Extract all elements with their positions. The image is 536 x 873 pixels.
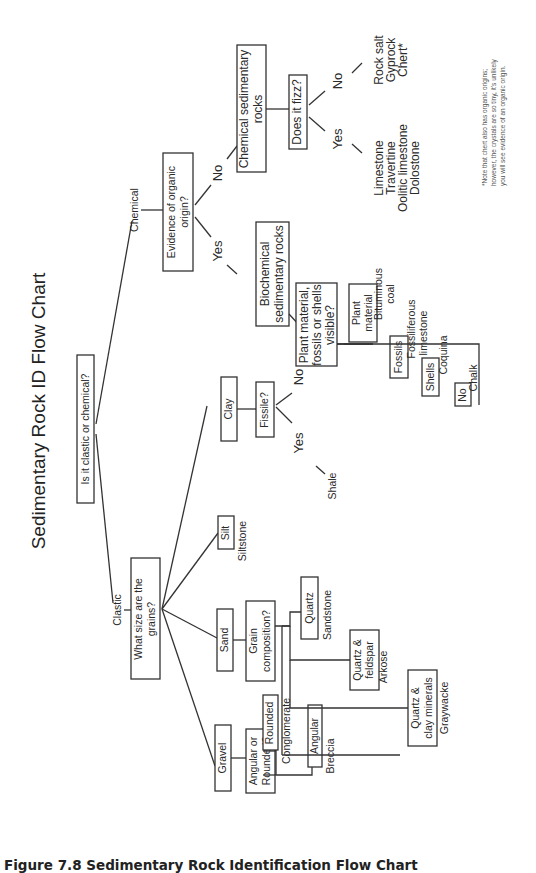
quartz-clay-line1: Quartz & — [409, 687, 421, 728]
connector-evaporites — [352, 63, 362, 73]
shells-label: Shells — [424, 363, 436, 392]
chem-sed-line2: rocks — [251, 95, 265, 124]
note-line3: you will see evidence of an organic orig… — [499, 65, 507, 186]
organic-origin-line2: origin? — [178, 196, 190, 228]
angular-rounded-line1: Angular or — [247, 736, 259, 785]
note-line2: however, the crystals are so tiny, it's … — [490, 58, 498, 186]
silt-label: Silt — [219, 526, 231, 541]
quartz-label: Quartz — [303, 592, 315, 624]
biochemical-line1: Biochemical — [258, 242, 272, 307]
chalk-label: Chalk — [467, 364, 479, 392]
fizz-yes-label: Yes — [330, 128, 345, 150]
connector-root-clastic — [96, 434, 113, 603]
clastic-label: Clastic — [111, 594, 123, 626]
bituminous-coal-line2: coal — [384, 284, 396, 303]
fissile-question: Fissile? — [258, 392, 270, 428]
connector-chem-sed — [227, 146, 237, 159]
fizz-question: Does it fizz? — [290, 79, 304, 145]
fossiliferous-line2: limestone — [417, 310, 429, 355]
plant-material-line1: Plant — [350, 301, 362, 325]
connector-fizz-yes — [309, 117, 325, 131]
connector-fissile-yes — [276, 407, 292, 423]
siltstone-label: Siltstone — [236, 521, 248, 561]
connector-organic-no — [195, 185, 211, 205]
rounded-label: Rounded — [263, 702, 275, 745]
visible-question-line1: Plant material, — [297, 287, 311, 364]
fizz-no-label: No — [330, 73, 345, 90]
fossiliferous-line1: Fossiliferous — [405, 300, 417, 359]
angular-label: Angular — [308, 717, 320, 754]
connector-angular-path — [276, 767, 312, 775]
quartz-clay-line2: clay minerals — [422, 677, 434, 738]
connector-quartz-clay — [290, 660, 408, 708]
visible-question-line3: visible? — [323, 305, 337, 345]
grain-size-question-line2: grains? — [145, 602, 157, 637]
organic-no-label: No — [210, 165, 225, 182]
connector-fizz-no — [309, 91, 325, 105]
visible-question-line2: fossils or shells — [310, 284, 324, 365]
shale-label: Shale — [326, 472, 338, 499]
chem-sed-line1: Chemical sedimentary — [237, 50, 251, 169]
organic-origin-line1: Evidence of organic — [165, 166, 177, 258]
bituminous-coal-line1: Bituminous — [372, 268, 384, 320]
fissile-no-label: No — [291, 369, 306, 386]
fossils-label: Fossils — [392, 341, 404, 374]
chart-title: Sedimentary Rock ID Flow Chart — [28, 272, 49, 549]
chert-label: Chert* — [396, 43, 410, 77]
connector-quartz — [282, 612, 301, 626]
grain-size-question-line1: What size are the — [132, 578, 144, 660]
quartz-feldspar-line2: feldspar — [363, 641, 375, 679]
fissile-yes-label: Yes — [291, 432, 306, 454]
organic-yes-label: Yes — [210, 240, 225, 262]
quartz-feldspar-line1: Quartz & — [351, 639, 363, 680]
connector-root-chemical — [96, 221, 132, 424]
note-line1: *Note that chert also has organic origin… — [481, 69, 489, 186]
connector-fissile-no — [276, 393, 292, 405]
graywacke-label: Graywacke — [438, 682, 450, 735]
chemical-label: Chemical — [128, 188, 140, 232]
arkose-label: Arkose — [377, 651, 389, 684]
connector-biochem — [227, 265, 237, 274]
gravel-label: Gravel — [216, 743, 228, 774]
dolostone-label: Dolostone — [408, 141, 422, 195]
root-question: Is it clastic or chemical? — [79, 373, 91, 484]
figure-caption: Figure 7.8 Sedimentary Rock Identificati… — [4, 857, 418, 873]
sand-label: Sand — [218, 628, 230, 653]
connector-organic-yes — [195, 217, 211, 237]
clay-label: Clay — [222, 398, 234, 420]
biochemical-line2: sedimentary rocks — [272, 225, 286, 322]
grain-composition-line1: Grain — [247, 628, 259, 654]
breccia-label: Breccia — [324, 738, 336, 773]
coquina-label: Coquina — [437, 335, 449, 374]
connector-carbonates — [352, 144, 362, 153]
connector-shale — [316, 466, 325, 474]
sandstone-label: Sandstone — [321, 590, 333, 640]
grain-composition-line2: composition? — [260, 610, 272, 672]
